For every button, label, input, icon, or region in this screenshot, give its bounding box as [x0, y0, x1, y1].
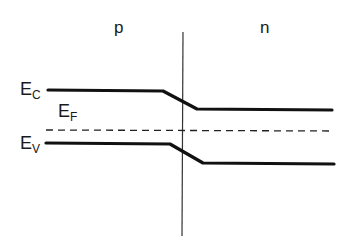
ec-label: EC — [20, 80, 41, 101]
ec-label-main: E — [20, 79, 32, 99]
n-region-label: n — [260, 19, 269, 36]
ef-label: EF — [58, 102, 77, 123]
p-region-label: p — [114, 19, 123, 36]
ef-label-sub: F — [70, 110, 77, 124]
ev-label-sub: V — [32, 142, 40, 156]
ec-label-sub: C — [32, 88, 41, 102]
ev-label: EV — [20, 134, 40, 155]
fermi-level-line — [46, 130, 334, 131]
ef-label-main: E — [58, 101, 70, 121]
valence-band-line — [46, 143, 334, 164]
junction-line — [182, 32, 183, 236]
band-diagram-svg — [0, 0, 355, 248]
ev-label-main: E — [20, 133, 32, 153]
band-diagram: p n EC EF EV — [0, 0, 355, 248]
conduction-band-line — [48, 90, 332, 110]
